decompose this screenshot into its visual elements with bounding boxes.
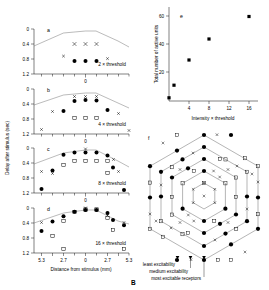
cross-marker	[187, 214, 190, 217]
panel-e: e 20 40 60 4 8 12 16 Total number o	[154, 7, 258, 121]
filled-circle-marker	[180, 157, 184, 161]
cross-marker	[212, 170, 215, 173]
filled-circle-marker	[111, 166, 115, 170]
filled-circle-marker	[40, 229, 44, 233]
panel-b-letter: b	[47, 87, 50, 93]
panel-a: a 0 0.4 0.8 1.2 0	[23, 27, 129, 84]
panel-f: f	[143, 133, 260, 281]
filled-circle-marker	[148, 164, 152, 168]
filled-square-marker	[172, 84, 175, 87]
panel-b-xtick-center: 0	[84, 139, 87, 144]
panel-a-ytick-1: 0.4	[23, 42, 30, 47]
panel-c-x-ticks: 0	[42, 193, 130, 203]
open-square-marker	[229, 258, 232, 261]
hexagon-ring-0-markers	[192, 181, 216, 204]
cross-marker	[179, 221, 182, 224]
cross-marker	[73, 95, 76, 98]
cross-marker	[244, 251, 247, 254]
filled-circle-marker	[223, 232, 227, 236]
filled-circle-marker	[62, 109, 66, 113]
cross-marker	[40, 170, 43, 173]
open-square-marker	[95, 116, 98, 119]
figure-label: B	[131, 279, 136, 286]
cross-marker	[190, 258, 193, 261]
panel-c-ytick-3: 1.2	[23, 191, 30, 196]
cross-marker	[227, 168, 230, 171]
panel-a-x-ticks: 0	[42, 74, 130, 84]
filled-square-marker	[207, 37, 210, 40]
panel-d-ytick-0: 0	[26, 206, 29, 211]
filled-circle-marker	[202, 244, 206, 248]
panel-d-xtick-2: 0	[84, 258, 87, 263]
annotation-medium-excitability: medium excitability	[149, 269, 189, 274]
open-square-marker	[73, 159, 76, 162]
panel-a-axes	[34, 29, 129, 74]
filled-circle-marker	[40, 187, 44, 191]
cross-marker	[73, 42, 77, 46]
open-square-marker	[95, 159, 98, 162]
filled-circle-marker	[256, 227, 260, 231]
filled-circle-marker	[202, 219, 206, 223]
filled-circle-marker	[202, 145, 206, 149]
open-square-marker	[106, 159, 109, 162]
cross-marker	[203, 195, 206, 198]
cross-marker	[203, 182, 206, 185]
panel-a-envelope	[34, 31, 129, 47]
panel-c-axes	[34, 148, 129, 193]
filled-circle-marker	[170, 175, 174, 179]
cross-marker	[40, 128, 43, 131]
filled-circle-marker	[245, 194, 249, 198]
cross-marker	[216, 133, 219, 136]
panel-c-xtick-center: 0	[84, 198, 87, 203]
cross-marker	[218, 176, 221, 179]
filled-circle-marker	[84, 98, 88, 102]
panel-b-y-ticks: 0 0.4 0.8 1.2	[23, 87, 34, 137]
filled-circle-marker	[202, 157, 206, 161]
panel-b-ytick-2: 0.8	[23, 117, 30, 122]
panel-d-letter: d	[47, 206, 50, 212]
filled-circle-marker	[84, 59, 88, 63]
filled-square-marker	[167, 96, 170, 99]
panel-d-xtick-1: 2.7	[60, 258, 67, 263]
panel-c-ytick-1: 0.4	[23, 161, 30, 166]
panel-d-xtick-0: 5.3	[38, 258, 45, 263]
filled-circle-marker	[202, 133, 206, 137]
filled-circle-marker	[223, 207, 227, 211]
filled-circle-marker	[181, 207, 185, 211]
delay-x-axis-label: Distance from stimulus (mm)	[50, 267, 111, 272]
cross-marker	[95, 95, 98, 98]
open-square-marker	[186, 231, 189, 234]
open-square-marker	[192, 169, 195, 172]
panel-b: b 0 0.4 0.8 1.2 0	[23, 87, 131, 144]
panel-e-axes	[169, 7, 258, 101]
panel-a-markers	[62, 42, 109, 63]
panel-a-y-ticks: 0 0.4 0.8 1.2	[23, 27, 34, 77]
panel-e-letter: e	[180, 13, 183, 19]
filled-square-marker	[187, 58, 190, 61]
panel-c-letter: c	[47, 146, 50, 152]
filled-circle-marker	[186, 166, 190, 170]
panel-b-axes	[34, 89, 129, 134]
open-square-marker	[84, 159, 87, 162]
filled-circle-marker	[229, 242, 233, 246]
annotation-most-excitable-receptors: most excitable receptors	[151, 276, 201, 281]
panel-e-xtick-16: 16	[246, 106, 252, 111]
cross-marker	[227, 221, 230, 224]
panel-a-ytick-0: 0	[26, 27, 29, 32]
cross-marker	[95, 42, 99, 46]
panel-d-ytick-1: 0.4	[23, 221, 30, 226]
filled-circle-marker	[84, 151, 88, 155]
filled-circle-marker	[256, 195, 260, 199]
panel-b-ytick-1: 0.4	[23, 102, 30, 107]
cross-marker	[51, 172, 54, 175]
panel-d-y-ticks: 0 0.4 0.8 1.2	[23, 206, 34, 256]
cross-marker	[251, 173, 254, 176]
open-square-marker	[111, 228, 114, 231]
open-square-marker	[73, 116, 76, 119]
cross-marker	[155, 220, 158, 223]
panel-e-y-axis-label: Total number of active units	[154, 24, 159, 83]
panel-e-ytick-60: 60	[159, 14, 165, 19]
open-square-marker	[62, 247, 65, 250]
open-square-marker	[84, 116, 87, 119]
filled-circle-marker	[159, 194, 163, 198]
